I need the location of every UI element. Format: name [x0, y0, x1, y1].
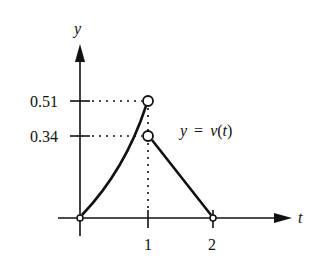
line-piece-2 [152, 140, 211, 215]
y-tick-label-051: 0.51 [30, 93, 58, 110]
fn-eq: = [194, 122, 203, 139]
chart: y t 0.51 0.34 1 2 y = v(t) [0, 0, 315, 265]
fn-paren-close: ) [227, 122, 232, 140]
curve-piece-1 [82, 106, 146, 215]
open-point-2-0 [210, 215, 216, 221]
open-point-1-034 [143, 131, 153, 141]
open-point-1-051 [143, 96, 153, 106]
y-tick-label-034: 0.34 [30, 128, 58, 145]
y-axis-arrow-icon [75, 44, 85, 62]
y-axis-label: y [72, 20, 82, 38]
x-tick-label-2: 2 [208, 236, 216, 253]
t-axis-label: t [298, 209, 303, 226]
x-axis-arrow-icon [274, 213, 292, 223]
open-point-origin [77, 215, 83, 221]
function-label: y = v(t) [178, 122, 232, 140]
fn-y: y [178, 122, 188, 140]
x-tick-label-1: 1 [144, 236, 152, 253]
